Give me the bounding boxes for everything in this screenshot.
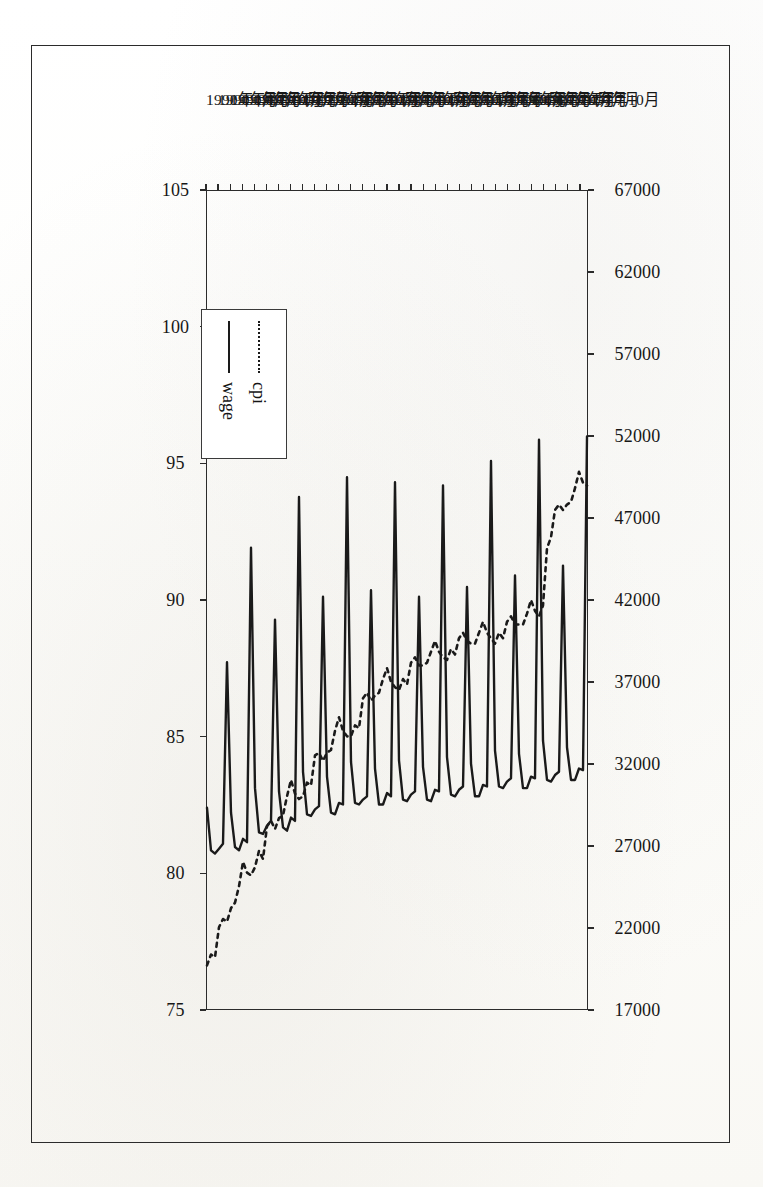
- primary-tick-label: 57000: [614, 343, 660, 364]
- primary-tick-mark: [588, 271, 594, 272]
- primary-tick-mark: [588, 763, 594, 764]
- category-tick-label: 1997年10月: [579, 87, 659, 109]
- primary-tick-mark: [588, 681, 594, 682]
- primary-tick-mark: [588, 927, 594, 928]
- legend-swatch-cpi: [258, 321, 260, 373]
- legend-label-wage: wage: [218, 382, 239, 420]
- primary-tick-mark: [588, 599, 594, 600]
- secondary-tick-label: 80: [166, 862, 184, 883]
- category-tick-mark: [241, 184, 242, 190]
- category-tick-mark: [543, 184, 544, 190]
- category-tick-mark: [338, 184, 339, 190]
- primary-value-axis-wage: 6700062000570005200047000420003700032000…: [588, 190, 662, 1010]
- secondary-tick-mark: [200, 736, 206, 737]
- secondary-tick-label: 105: [161, 179, 189, 200]
- secondary-value-axis-cpi: 1051009590858075: [102, 190, 206, 1010]
- category-tick-mark: [217, 184, 218, 190]
- category-tick-mark: [265, 184, 266, 190]
- primary-tick-label: 67000: [614, 179, 660, 200]
- primary-tick-label: 52000: [614, 425, 660, 446]
- secondary-tick-mark: [200, 872, 206, 873]
- legend-label-cpi: cpi: [248, 382, 269, 404]
- secondary-tick-mark: [200, 462, 206, 463]
- category-tick-mark: [494, 184, 495, 190]
- category-tick-mark: [482, 184, 483, 190]
- secondary-tick-label: 95: [166, 452, 184, 473]
- category-tick-mark: [277, 184, 278, 190]
- secondary-tick-label: 100: [161, 316, 189, 337]
- primary-tick-mark: [588, 435, 594, 436]
- chart-stage: 6700062000570005200047000420003700032000…: [102, 94, 662, 1094]
- category-tick-mark: [410, 184, 411, 190]
- secondary-tick-label: 85: [166, 726, 184, 747]
- legend: cpi wage: [201, 309, 287, 459]
- category-tick-mark: [398, 184, 399, 190]
- secondary-tick-mark: [200, 599, 206, 600]
- category-tick-mark: [579, 184, 580, 190]
- category-tick-mark: [229, 184, 230, 190]
- primary-tick-label: 62000: [614, 261, 660, 282]
- category-axis-dates: 1990年1月1990年4月1990年7月1990年10月1991年1月1991…: [206, 94, 588, 190]
- primary-tick-label: 17000: [614, 999, 660, 1020]
- primary-tick-mark: [588, 517, 594, 518]
- series-path-wage: [207, 436, 587, 853]
- category-tick-mark: [386, 184, 387, 190]
- category-tick-mark: [362, 184, 363, 190]
- primary-tick-label: 32000: [614, 753, 660, 774]
- category-tick-mark: [422, 184, 423, 190]
- primary-tick-label: 42000: [614, 589, 660, 610]
- category-tick-mark: [374, 184, 375, 190]
- category-tick-mark: [350, 184, 351, 190]
- category-tick-mark: [301, 184, 302, 190]
- plot-area: cpi wage: [206, 190, 588, 1010]
- category-tick-mark: [458, 184, 459, 190]
- category-tick-mark: [470, 184, 471, 190]
- category-tick-mark: [253, 184, 254, 190]
- secondary-tick-label: 75: [166, 999, 184, 1020]
- category-tick-mark: [531, 184, 532, 190]
- category-tick-mark: [519, 184, 520, 190]
- primary-tick-label: 47000: [614, 507, 660, 528]
- scanned-figure-page: 6700062000570005200047000420003700032000…: [0, 0, 763, 1187]
- primary-tick-mark: [588, 353, 594, 354]
- primary-tick-mark: [588, 189, 594, 190]
- category-tick-mark: [567, 184, 568, 190]
- category-tick-mark: [446, 184, 447, 190]
- category-tick-mark: [326, 184, 327, 190]
- category-tick-mark: [434, 184, 435, 190]
- category-tick-mark: [313, 184, 314, 190]
- legend-item-wage: wage: [218, 321, 240, 420]
- category-tick-mark: [555, 184, 556, 190]
- rotated-chart-wrapper: 6700062000570005200047000420003700032000…: [0, 0, 763, 1187]
- secondary-tick-label: 90: [166, 589, 184, 610]
- primary-tick-mark: [588, 1009, 594, 1010]
- category-tick-mark: [289, 184, 290, 190]
- primary-tick-mark: [588, 845, 594, 846]
- category-tick-mark: [507, 184, 508, 190]
- primary-tick-label: 22000: [614, 917, 660, 938]
- legend-item-cpi: cpi: [248, 321, 270, 404]
- primary-tick-label: 37000: [614, 671, 660, 692]
- secondary-tick-mark: [200, 1009, 206, 1010]
- primary-tick-label: 27000: [614, 835, 660, 856]
- legend-swatch-wage: [228, 321, 230, 373]
- category-tick-mark: [205, 184, 206, 190]
